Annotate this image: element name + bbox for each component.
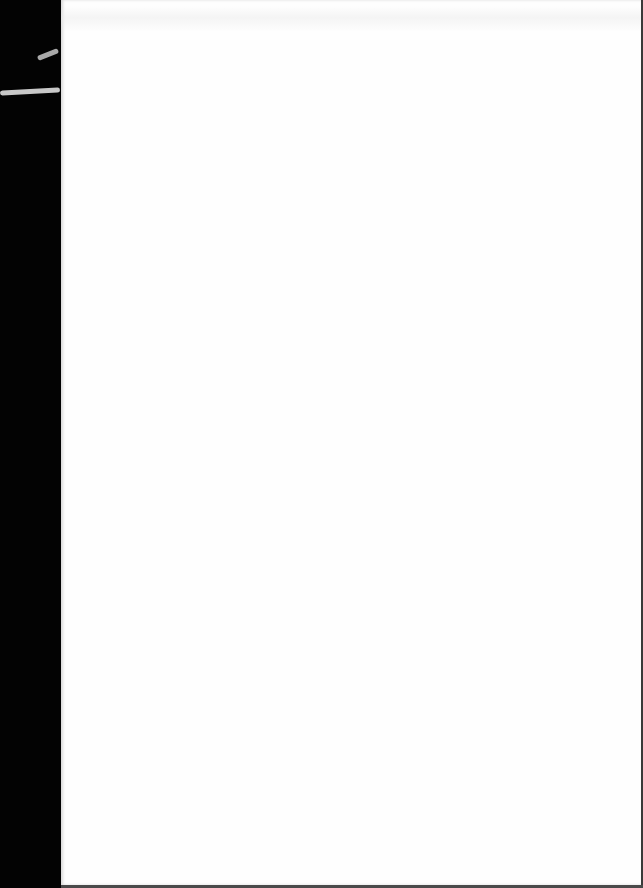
blank-page bbox=[61, 0, 641, 885]
scanned-document bbox=[0, 0, 643, 888]
scratch-mark bbox=[37, 48, 59, 61]
bleed-through-smudge bbox=[61, 6, 641, 32]
scratch-mark bbox=[0, 87, 60, 95]
scanner-binding-edge bbox=[0, 0, 61, 888]
